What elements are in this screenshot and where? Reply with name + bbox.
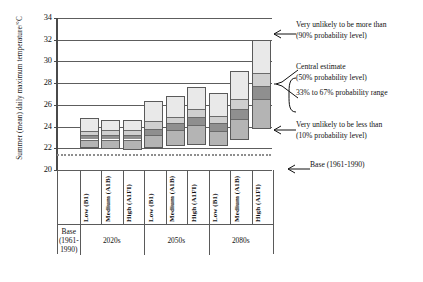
- probability-band: [145, 129, 162, 136]
- x-axis-scenario-cell: High (A1FI): [187, 170, 210, 224]
- y-tick-label-34: 34: [44, 14, 52, 22]
- scenario-label: Medium (A1B): [233, 176, 241, 222]
- scenario-label: Medium (A1B): [104, 176, 112, 222]
- leader-arrow-base: [282, 163, 310, 175]
- x-axis-group-label: Base(1961-1990): [58, 224, 81, 255]
- probability-band: [167, 97, 184, 117]
- x-axis-scenario-cell: Low (B1): [144, 170, 167, 224]
- scenario-label: Medium (A1B): [168, 176, 176, 222]
- gridline-22: [57, 148, 272, 149]
- probability-bar: [209, 93, 228, 146]
- annotation-central: Central estimate(50% probability level): [296, 62, 367, 83]
- y-tick-30: [54, 61, 58, 62]
- annotation-lower: Very unlikely to be less than(10% probab…: [296, 120, 382, 141]
- x-axis-group-label: 2050s: [144, 224, 210, 255]
- probability-band: [167, 123, 184, 130]
- scenario-label: Low (B1): [147, 193, 155, 222]
- x-axis-group-label: 2020s: [80, 224, 146, 255]
- y-tick-label-32: 32: [44, 36, 52, 44]
- probability-band: [124, 121, 141, 130]
- probability-bar: [101, 120, 120, 149]
- y-tick-22: [54, 148, 58, 149]
- annotation-line: (50% probability level): [296, 73, 367, 84]
- annotation-line: (10% probability level): [296, 131, 382, 142]
- probability-band: [231, 119, 248, 140]
- probability-bar: [123, 120, 142, 150]
- probability-band: [210, 131, 227, 146]
- annotation-line: Very unlikely to be less than: [296, 120, 382, 131]
- x-axis-scenario-cell: Low (B1): [80, 170, 103, 224]
- probability-band: [124, 140, 141, 151]
- y-tick-34: [54, 18, 58, 19]
- gridline-32: [57, 40, 272, 41]
- scenario-label: High (A1FI): [254, 184, 262, 222]
- x-axis-scenario-cell: Medium (A1B): [101, 170, 124, 224]
- x-axis-scenario-cell: Medium (A1B): [166, 170, 189, 224]
- probability-band: [145, 135, 162, 148]
- leader-arrow-upper: [268, 24, 296, 40]
- probability-band: [210, 123, 227, 131]
- x-axis-group-label: 2080s: [209, 224, 274, 255]
- group-label-text: 2050s: [167, 236, 185, 245]
- probability-bar: [166, 96, 185, 146]
- group-label-text: 2080s: [232, 236, 250, 245]
- y-tick-label-30: 30: [44, 57, 52, 65]
- annotation-line: 33% to 67% probability range: [296, 88, 388, 99]
- x-axis-scenario-cell: High (A1FI): [252, 170, 275, 224]
- y-tick-label-24: 24: [44, 122, 52, 130]
- scenario-label: Low (B1): [211, 193, 219, 222]
- probability-bar: [80, 118, 99, 148]
- annotation-line: Base (1961-1990): [310, 160, 365, 171]
- probability-band: [102, 140, 119, 150]
- gridline-34: [57, 18, 272, 19]
- probability-bar: [230, 71, 249, 139]
- annotation-line: (90% probability level): [296, 31, 386, 42]
- probability-band: [145, 102, 162, 122]
- scenario-label: Low (B1): [82, 193, 90, 222]
- probability-band: [167, 117, 184, 124]
- probability-band: [188, 88, 205, 109]
- probability-band: [188, 125, 205, 145]
- group-label-text: Base(1961-1990): [58, 227, 80, 254]
- y-tick-label-20: 20: [44, 166, 52, 174]
- y-tick-label-26: 26: [44, 101, 52, 109]
- y-tick-24: [54, 127, 58, 128]
- gridline-30: [57, 61, 272, 62]
- probability-band: [210, 94, 227, 116]
- scenario-label: High (A1FI): [190, 184, 198, 222]
- y-tick-26: [54, 105, 58, 106]
- group-label-text: 2020s: [103, 236, 121, 245]
- y-tick-28: [54, 83, 58, 84]
- y-axis-line: [56, 18, 58, 170]
- probability-band: [81, 140, 98, 149]
- x-axis-scenario-cell: Medium (A1B): [230, 170, 253, 224]
- leader-arrow-lower: [268, 124, 296, 136]
- range-bracket: [286, 78, 298, 112]
- scenario-label: High (A1FI): [125, 184, 133, 222]
- x-axis-scenario-cell: Low (B1): [209, 170, 232, 224]
- probability-bar: [187, 87, 206, 145]
- probability-band: [188, 117, 205, 126]
- x-axis-label-table: Low (B1)Medium (A1B)High (A1FI)Low (B1)M…: [57, 170, 274, 254]
- y-tick-label-28: 28: [44, 79, 52, 87]
- probability-band: [188, 109, 205, 117]
- y-tick-label-22: 22: [44, 144, 52, 152]
- chart-figure: Summer (mean) daily maximum temperature/…: [0, 0, 423, 282]
- y-axis-title: Summer (mean) daily maximum temperature/…: [16, 0, 24, 178]
- base-period-line: [57, 154, 272, 156]
- probability-band: [102, 121, 119, 130]
- probability-band: [231, 99, 248, 109]
- probability-band: [81, 119, 98, 131]
- annotation-line: Central estimate: [296, 62, 367, 73]
- x-axis-base-cell: [58, 170, 81, 224]
- probability-band: [210, 116, 227, 124]
- probability-bar: [144, 101, 163, 149]
- probability-band: [167, 130, 184, 146]
- annotation-base: Base (1961-1990): [310, 160, 365, 171]
- annotation-range: 33% to 67% probability range: [296, 88, 388, 99]
- x-axis-scenario-cell: High (A1FI): [123, 170, 146, 224]
- y-tick-32: [54, 40, 58, 41]
- probability-band: [145, 121, 162, 129]
- annotation-line: Very unlikely to be more than: [296, 20, 386, 31]
- plot-area: 2022242628303234: [57, 18, 272, 170]
